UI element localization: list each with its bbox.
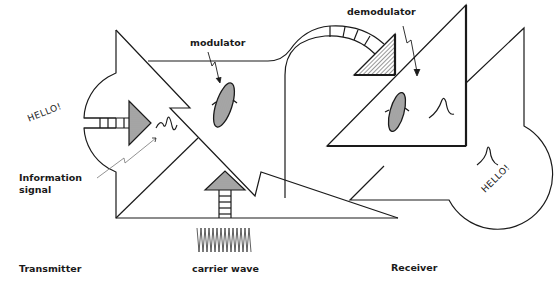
information-input-arrow	[84, 101, 151, 145]
carrier-wave-arrow	[205, 171, 245, 218]
modulator-pointer	[208, 52, 219, 80]
carrier-wave-icon	[197, 228, 251, 252]
output-wave	[477, 147, 498, 165]
information-signal-label-line1: Information	[19, 172, 82, 184]
demodulator-label: demodulator	[347, 6, 416, 18]
modulator-signal-icon	[209, 81, 238, 130]
information-signal-label-line2: signal	[19, 184, 51, 196]
receiver-label: Receiver	[391, 262, 437, 274]
information-signal-wave	[156, 117, 177, 130]
transmitter-label: Transmitter	[19, 263, 81, 275]
modulator-pointer-tip	[216, 77, 221, 83]
modulation-diagram	[0, 0, 559, 298]
carrier-wave-label: carrier wave	[192, 263, 259, 275]
information-signal-pointer	[97, 138, 156, 178]
demodulator-input-arrow	[354, 34, 395, 75]
modulator-label: modulator	[190, 37, 245, 49]
